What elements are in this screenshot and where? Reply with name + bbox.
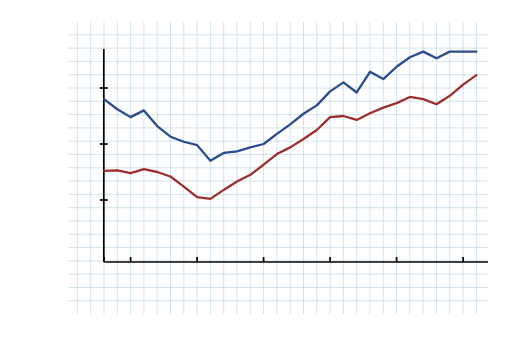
chart-figure: SOURCE: Lawrence Mishel, Jared Bernstein… [0, 0, 507, 337]
grid-lines [68, 22, 488, 314]
axis-lines [100, 49, 488, 262]
plot-area [68, 22, 488, 314]
